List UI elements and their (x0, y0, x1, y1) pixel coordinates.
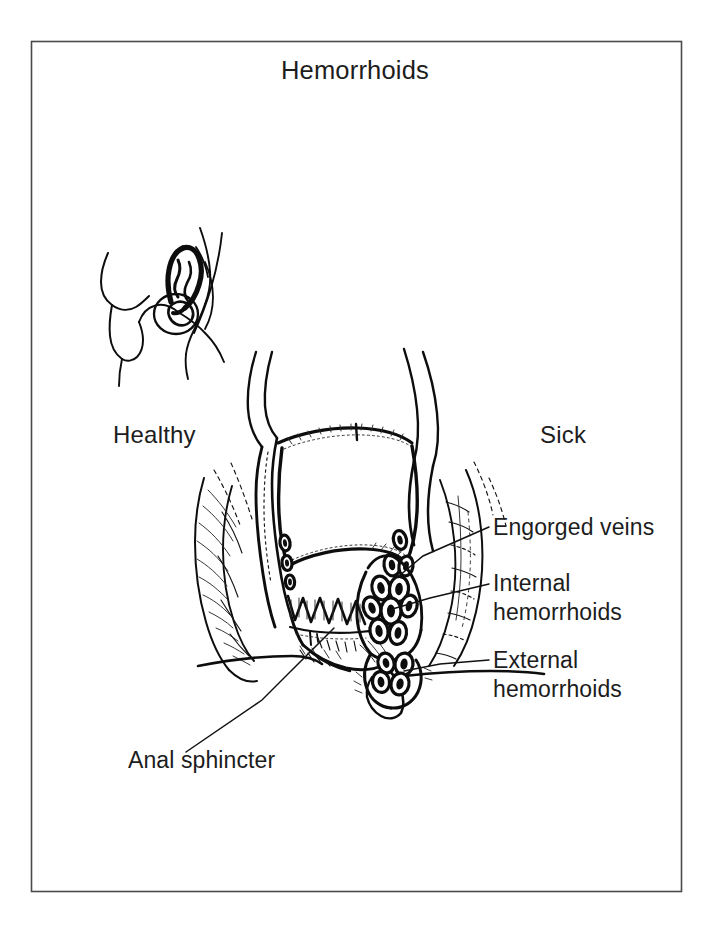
figure-title: Hemorrhoids (281, 56, 429, 84)
callout-internal-hemorrhoids-line1: Internal (493, 570, 571, 596)
caption-healthy: Healthy (113, 421, 196, 448)
callout-anal-sphincter-line1: Anal sphincter (128, 747, 275, 773)
hemorrhoids-figure: Hemorrhoids Healthy Sick (0, 0, 719, 932)
caption-sick: Sick (540, 421, 587, 448)
figure-background (0, 0, 719, 932)
callout-internal-hemorrhoids-line2: hemorrhoids (493, 599, 622, 625)
callout-external-hemorrhoids-line2: hemorrhoids (493, 676, 622, 702)
figure-canvas: Hemorrhoids Healthy Sick (0, 0, 719, 932)
callout-external-hemorrhoids-line1: External (493, 647, 578, 673)
callout-engorged-veins-line1: Engorged veins (493, 514, 654, 540)
